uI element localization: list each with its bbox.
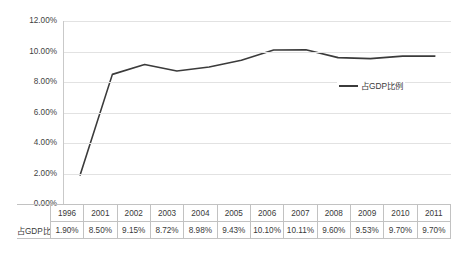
y-axis-tick-label: 2.00% [34, 169, 57, 177]
table-header-row: 1996200120022003200420052006200720082009… [17, 205, 451, 222]
table-column-header: 2005 [217, 205, 250, 222]
table-column-header: 2002 [117, 205, 150, 222]
legend-label: 占GDP比例 [361, 82, 403, 90]
table-value-cell: 8.98% [184, 222, 217, 239]
table-column-header: 2010 [384, 205, 417, 222]
gridline [64, 143, 451, 144]
plot-area [63, 21, 451, 204]
y-axis-labels: 0.00%2.00%4.00%6.00%8.00%10.00%12.00% [0, 0, 60, 210]
table-column-header: 2009 [350, 205, 383, 222]
gridline [64, 21, 451, 22]
table-column-header: 2008 [317, 205, 350, 222]
gridline [64, 174, 451, 175]
table-value-cell: 10.11% [284, 222, 317, 239]
table-value-cell: 9.53% [350, 222, 383, 239]
legend-line-swatch [339, 85, 358, 87]
table-column-header: 2003 [150, 205, 183, 222]
table-row-header: 占GDP比例 [17, 222, 50, 239]
table-column-header: 2007 [284, 205, 317, 222]
gridline [64, 113, 451, 114]
table-value-cell: 9.43% [217, 222, 250, 239]
y-axis-tick-label: 10.00% [29, 47, 57, 55]
table-corner-cell [17, 205, 50, 222]
y-axis-tick-label: 4.00% [34, 139, 57, 147]
y-axis-tick-label: 12.00% [29, 17, 57, 25]
table-value-cell: 10.10% [250, 222, 283, 239]
table-value-cell: 8.50% [84, 222, 117, 239]
table-column-header: 1996 [50, 205, 83, 222]
table-value-cell: 9.70% [417, 222, 450, 239]
table-column-header: 2001 [84, 205, 117, 222]
table-column-header: 2011 [417, 205, 450, 222]
line-chart: 0.00%2.00%4.00%6.00%8.00%10.00%12.00% 占G… [0, 0, 452, 253]
data-table: 1996200120022003200420052006200720082009… [17, 204, 451, 239]
table-value-cell: 9.70% [384, 222, 417, 239]
table-value-cell: 9.60% [317, 222, 350, 239]
table-column-header: 2006 [250, 205, 283, 222]
table-column-header: 2004 [184, 205, 217, 222]
legend: 占GDP比例 [337, 81, 405, 91]
gridline [64, 52, 451, 53]
y-axis-tick-label: 8.00% [34, 78, 57, 86]
table-data-row: 占GDP比例 1.90%8.50%9.15%8.72%8.98%9.43%10.… [17, 222, 451, 239]
table-value-cell: 9.15% [117, 222, 150, 239]
table-value-cell: 1.90% [50, 222, 83, 239]
y-axis-tick-label: 6.00% [34, 108, 57, 116]
table-value-cell: 8.72% [150, 222, 183, 239]
